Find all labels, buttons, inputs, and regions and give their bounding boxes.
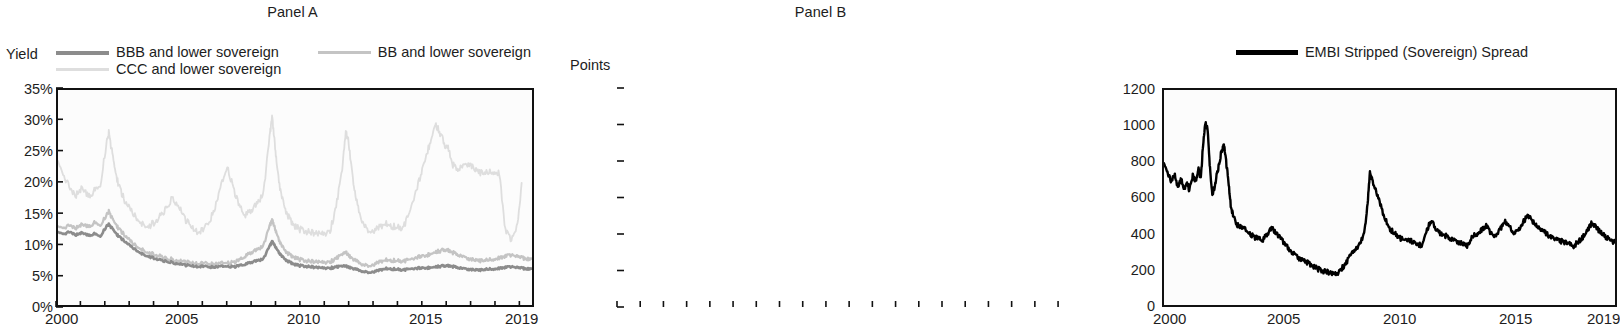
legend-item-bb: BB and lower sovereign bbox=[318, 44, 531, 61]
series-line bbox=[58, 210, 532, 267]
panel-a-xtick-2005: 2005 bbox=[165, 310, 198, 327]
panel-b-ytick-600: 600 bbox=[1107, 189, 1155, 205]
legend-item-embi: EMBI Stripped (Sovereign) Spread bbox=[1236, 44, 1528, 61]
panel-a-xtick-2019: 2019 bbox=[505, 310, 538, 327]
panel-b-ytick-400: 400 bbox=[1107, 226, 1155, 242]
panel-b: Panel B Points EMBI Stripped (Sovereign)… bbox=[545, 0, 1076, 335]
series-line bbox=[58, 116, 522, 242]
panel-a-y-axis-unit-label: Yield bbox=[6, 46, 38, 62]
panel-b-plot-area bbox=[1162, 88, 1617, 307]
series-line bbox=[1164, 122, 1615, 275]
panel-b-xtick-2000: 2000 bbox=[1153, 310, 1186, 327]
panel-a: Panel A Yield BBB and lower sovereign BB… bbox=[0, 0, 545, 335]
panel-a-ytick-5: 5% bbox=[1, 268, 53, 284]
panel-a-ytick-30: 30% bbox=[1, 112, 53, 128]
panel-a-legend: BBB and lower sovereign BB and lower sov… bbox=[56, 44, 526, 78]
panel-a-ytick-20: 20% bbox=[1, 174, 53, 190]
panel-b-ytick-200: 200 bbox=[1107, 262, 1155, 278]
panel-b-ytick-1000: 1000 bbox=[1107, 117, 1155, 133]
panel-a-line-chart bbox=[58, 90, 532, 305]
panel-a-xtick-2010: 2010 bbox=[287, 310, 320, 327]
panel-a-ytick-25: 25% bbox=[1, 143, 53, 159]
legend-swatch-embi-icon bbox=[1236, 50, 1298, 55]
panel-b-xtick-2019: 2019 bbox=[1587, 310, 1620, 327]
panel-a-title: Panel A bbox=[0, 4, 565, 20]
legend-swatch-ccc-icon bbox=[56, 68, 109, 71]
legend-row-2: CCC and lower sovereign bbox=[56, 61, 526, 78]
panel-b-title: Panel B bbox=[545, 4, 1086, 20]
panel-a-ytick-10: 10% bbox=[1, 237, 53, 253]
panel-a-xtick-2000: 2000 bbox=[45, 310, 78, 327]
panel-b-ytick-1200: 1200 bbox=[1107, 81, 1155, 97]
panel-a-plot-area bbox=[56, 88, 534, 307]
legend-label-bb: BB and lower sovereign bbox=[378, 44, 531, 61]
legend-swatch-bb-icon bbox=[318, 51, 371, 54]
panel-b-xtick-2005: 2005 bbox=[1267, 310, 1300, 327]
legend-row-1: EMBI Stripped (Sovereign) Spread bbox=[1162, 44, 1602, 61]
panel-b-y-axis-unit-label: Points bbox=[570, 57, 610, 73]
panel-b-ytick-800: 800 bbox=[1107, 153, 1155, 169]
legend-swatch-bbb-icon bbox=[56, 51, 109, 55]
panel-b-xtick-2015: 2015 bbox=[1499, 310, 1532, 327]
panel-b-ytick-0: 0 bbox=[1107, 298, 1155, 314]
panel-a-ytick-15: 15% bbox=[1, 206, 53, 222]
legend-label-bbb: BBB and lower sovereign bbox=[116, 44, 279, 61]
legend-label-ccc: CCC and lower sovereign bbox=[116, 61, 281, 78]
panel-a-xtick-2015: 2015 bbox=[409, 310, 442, 327]
panel-b-xtick-2010: 2010 bbox=[1383, 310, 1416, 327]
panel-b-legend: EMBI Stripped (Sovereign) Spread bbox=[1162, 44, 1602, 61]
legend-row-1: BBB and lower sovereign BB and lower sov… bbox=[56, 44, 526, 61]
legend-label-embi: EMBI Stripped (Sovereign) Spread bbox=[1305, 44, 1528, 61]
panel-a-ytick-35: 35% bbox=[1, 81, 53, 97]
panel-b-line-chart bbox=[1164, 90, 1615, 305]
series-line bbox=[58, 223, 532, 273]
legend-item-bbb: BBB and lower sovereign bbox=[56, 44, 279, 61]
legend-item-ccc: CCC and lower sovereign bbox=[56, 61, 281, 78]
